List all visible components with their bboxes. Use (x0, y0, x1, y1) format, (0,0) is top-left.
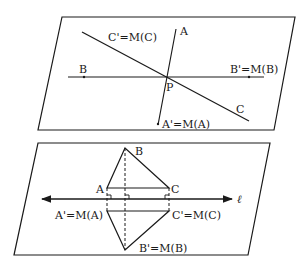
point-a-prime (157, 123, 159, 125)
label-b-prime: B'=M(B) (230, 63, 278, 76)
top-figure: C'=M(C) A B B'=M(B) P C A'=M(A) (38, 17, 295, 131)
label-l: ℓ (237, 193, 242, 206)
label-c: C (171, 183, 179, 196)
label-a-prime: A'=M(A) (54, 209, 103, 222)
label-c: C (236, 103, 244, 116)
label-b: B (135, 145, 143, 158)
bottom-figure: B A C ℓ A'=M(A) C'=M(C) B'=M(B) (14, 143, 270, 255)
reflection-diagram: C'=M(C) A B B'=M(B) P C A'=M(A) B A C ℓ … (0, 0, 301, 270)
label-a: A (179, 25, 189, 38)
label-c-prime: C'=M(C) (108, 31, 157, 44)
label-c-prime: C'=M(C) (172, 209, 221, 222)
label-b: B (79, 63, 87, 76)
label-a: A (95, 183, 105, 196)
label-p: P (166, 81, 174, 94)
label-b-prime: B'=M(B) (139, 242, 187, 255)
point-b (83, 76, 85, 78)
point-b-prime (248, 76, 250, 78)
label-a-prime: A'=M(A) (161, 118, 210, 131)
